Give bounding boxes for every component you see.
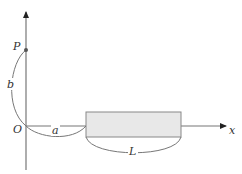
- label-b: b: [7, 78, 14, 91]
- label-x: x: [229, 124, 236, 137]
- label-p: P: [12, 40, 21, 53]
- diagram-canvas: P b O a L x: [0, 0, 242, 174]
- label-a: a: [52, 124, 59, 137]
- point-p: [24, 48, 28, 52]
- label-L: L: [128, 145, 136, 158]
- label-origin: O: [13, 123, 22, 136]
- rod: [86, 112, 181, 137]
